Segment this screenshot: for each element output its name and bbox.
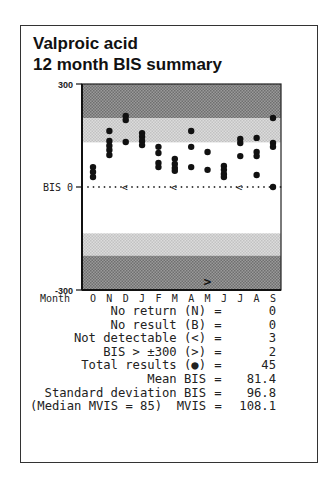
stat-row: Total results (●)=45 bbox=[30, 359, 276, 373]
stat-equals: = bbox=[206, 332, 230, 346]
stat-label: Not detectable (<) bbox=[74, 332, 206, 346]
data-point bbox=[253, 135, 259, 141]
data-point bbox=[237, 140, 243, 146]
band-light bbox=[82, 233, 281, 255]
month-tick-label: M bbox=[172, 293, 178, 304]
data-point bbox=[155, 150, 161, 156]
stat-label: Standard deviation BIS bbox=[45, 387, 206, 401]
data-point bbox=[253, 172, 259, 178]
month-tick-label: D bbox=[123, 293, 129, 304]
stat-row: No return (N)=0 bbox=[30, 305, 276, 319]
stat-label: (Median MVIS = 85) MVIS bbox=[30, 400, 206, 414]
stat-label: Mean BIS bbox=[147, 373, 206, 387]
month-tick-label: M bbox=[205, 293, 211, 304]
data-point bbox=[253, 153, 259, 159]
stat-equals: = bbox=[206, 319, 230, 333]
stat-row: Mean BIS=81.4 bbox=[30, 373, 276, 387]
month-tick-label: A bbox=[254, 293, 260, 304]
stat-value: 96.8 bbox=[230, 387, 276, 401]
data-point bbox=[270, 184, 276, 190]
stat-value: 0 bbox=[230, 319, 276, 333]
data-point bbox=[155, 164, 161, 170]
data-point bbox=[139, 142, 145, 148]
data-point bbox=[90, 174, 96, 180]
month-tick-label: A bbox=[188, 293, 194, 304]
stat-value: 45 bbox=[230, 359, 276, 373]
x-axis-label: Month bbox=[40, 293, 70, 304]
not-detectable-marker: < bbox=[122, 182, 128, 193]
stat-equals: = bbox=[206, 387, 230, 401]
stat-equals: = bbox=[206, 373, 230, 387]
stat-equals: = bbox=[206, 400, 230, 414]
y-tick-label: BIS 0 bbox=[43, 182, 73, 193]
data-point bbox=[188, 128, 194, 134]
month-tick-label: J bbox=[237, 293, 243, 304]
not-detectable-marker: < bbox=[236, 182, 242, 193]
data-point bbox=[188, 144, 194, 150]
stat-value: 2 bbox=[230, 346, 276, 360]
month-tick-label: F bbox=[155, 293, 161, 304]
stat-label: Total results (●) bbox=[81, 359, 206, 373]
month-tick-label: J bbox=[139, 293, 145, 304]
stat-label: No result (B) bbox=[111, 319, 206, 333]
stat-label: BIS > ±300 (>) bbox=[103, 346, 206, 360]
stat-equals: = bbox=[206, 359, 230, 373]
data-point bbox=[155, 144, 161, 150]
stat-row: BIS > ±300 (>)=2 bbox=[30, 346, 276, 360]
stat-equals: = bbox=[206, 305, 230, 319]
stat-row: No result (B)=0 bbox=[30, 319, 276, 333]
y-tick-label: 300 bbox=[58, 80, 73, 90]
data-point bbox=[237, 153, 243, 159]
stat-equals: = bbox=[206, 346, 230, 360]
stat-value: 0 bbox=[230, 305, 276, 319]
out-of-range-marker: > bbox=[204, 274, 212, 289]
stat-value: 81.4 bbox=[230, 373, 276, 387]
data-point bbox=[172, 168, 178, 174]
data-point bbox=[270, 144, 276, 150]
stat-value: 3 bbox=[230, 332, 276, 346]
stat-value: 108.1 bbox=[230, 400, 276, 414]
month-tick-label: J bbox=[221, 293, 227, 304]
data-point bbox=[204, 149, 210, 155]
data-point bbox=[123, 117, 129, 123]
summary-statistics: No return (N)=0No result (B)=0Not detect… bbox=[30, 305, 276, 414]
data-point bbox=[204, 167, 210, 173]
stat-label: No return (N) bbox=[111, 305, 206, 319]
data-point bbox=[106, 128, 112, 134]
data-point bbox=[123, 139, 129, 145]
zero-line bbox=[87, 186, 281, 188]
data-point bbox=[106, 152, 112, 158]
month-tick-label: O bbox=[90, 293, 96, 304]
band-dark bbox=[82, 256, 281, 290]
stat-row: Not detectable (<)=3 bbox=[30, 332, 276, 346]
not-detectable-marker: < bbox=[171, 182, 177, 193]
month-tick-label: N bbox=[106, 293, 112, 304]
stat-row: Standard deviation BIS=96.8 bbox=[30, 387, 276, 401]
data-point bbox=[270, 115, 276, 121]
month-tick-label: S bbox=[270, 293, 276, 304]
band-dark bbox=[82, 84, 281, 118]
stat-row: (Median MVIS = 85) MVIS=108.1 bbox=[30, 400, 276, 414]
data-point bbox=[188, 164, 194, 170]
data-point bbox=[221, 174, 227, 180]
